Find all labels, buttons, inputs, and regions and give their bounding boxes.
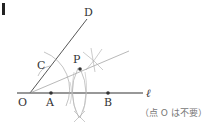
point-b (106, 91, 110, 95)
point-p (78, 67, 82, 71)
geometry-figure: O A B C D P ℓ （点 O は不要） (0, 0, 217, 129)
problem-marker (2, 3, 5, 15)
label-d: D (84, 6, 93, 19)
label-b: B (104, 96, 112, 109)
label-line-l: ℓ (146, 87, 151, 100)
label-o: O (18, 96, 27, 109)
point-a (49, 91, 53, 95)
label-c: C (37, 59, 45, 72)
label-p: P (73, 53, 81, 66)
label-a: A (45, 96, 55, 109)
note-text: （点 O は不要） (140, 108, 207, 118)
